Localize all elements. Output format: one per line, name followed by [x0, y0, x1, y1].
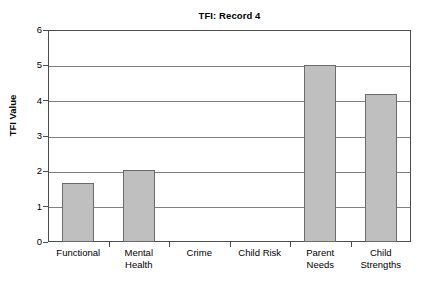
y-tick-mark [43, 242, 48, 243]
y-tick-mark [43, 30, 48, 31]
y-tick-label: 2 [22, 166, 42, 176]
y-tick-mark [43, 100, 48, 101]
y-tick-label: 3 [22, 131, 42, 141]
x-axis-category-label: Child Risk [230, 247, 291, 259]
y-tick-mark [43, 65, 48, 66]
gridline [49, 172, 410, 173]
bar [304, 65, 336, 242]
y-tick-label: 5 [22, 60, 42, 70]
gridline [49, 101, 410, 102]
bar [123, 170, 155, 242]
y-tick-label: 0 [22, 237, 42, 247]
y-tick-label: 4 [22, 96, 42, 106]
y-tick-mark [43, 136, 48, 137]
y-tick-label: 6 [22, 25, 42, 35]
y-tick-mark [43, 206, 48, 207]
x-axis-category-label: Mental Health [109, 247, 170, 270]
bar-chart: TFI: Record 4 TFI Value 6543210 Function… [0, 0, 429, 288]
x-axis-category-label: Child Strengths [351, 247, 412, 270]
x-axis-category-label: Parent Needs [290, 247, 351, 270]
x-axis-category-label: Crime [169, 247, 230, 259]
y-axis-title: TFI Value [7, 76, 18, 156]
y-tick-mark [43, 171, 48, 172]
bar [62, 183, 94, 242]
x-axis-category-label: Functional [48, 247, 109, 259]
bar [365, 94, 397, 242]
y-tick-label: 1 [22, 202, 42, 212]
plot-area [48, 30, 411, 242]
chart-title: TFI: Record 4 [48, 10, 411, 21]
gridline [49, 137, 410, 138]
gridline [49, 207, 410, 208]
gridline [49, 66, 410, 67]
